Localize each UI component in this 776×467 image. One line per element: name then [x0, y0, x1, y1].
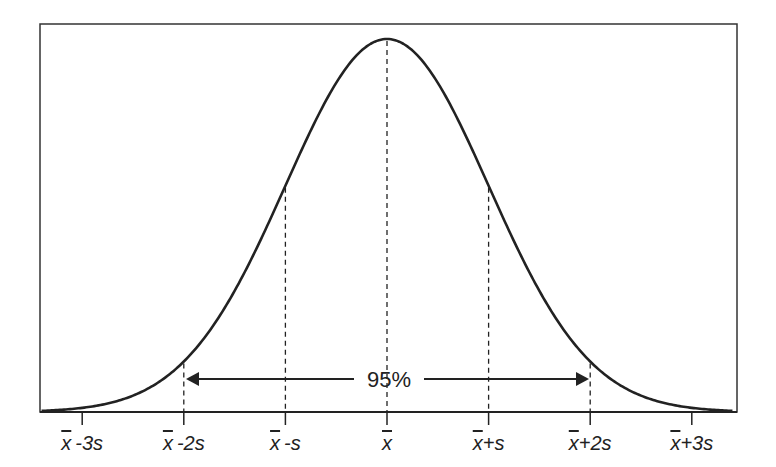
- x-tick-label: x+s: [472, 432, 505, 454]
- sigma-offset: -3s: [71, 432, 103, 454]
- x-tick-label: x+2s: [568, 432, 612, 454]
- sigma-offset: -s: [280, 432, 301, 454]
- sigma-offset: +s: [483, 432, 505, 454]
- x-tick-label: x: [381, 432, 393, 454]
- sigma-offset: +3s: [680, 432, 713, 454]
- x-ticks: x -3sx -2sx -sxx+sx+2sx+3s: [60, 412, 713, 454]
- normal-distribution-diagram: 95% x -3sx -2sx -sxx+sx+2sx+3s: [0, 0, 776, 467]
- sigma-offset: +2s: [579, 432, 612, 454]
- x-tick-label: x -3s: [60, 432, 103, 454]
- x-tick-label: x -s: [269, 432, 301, 454]
- x-tick-label: x+3s: [669, 432, 713, 454]
- sigma-offset: -2s: [173, 432, 205, 454]
- x-bar-symbol: x: [381, 432, 393, 454]
- x-tick-label: x -2s: [162, 432, 205, 454]
- interval-label: 95%: [367, 367, 411, 392]
- plot-frame: [40, 24, 737, 412]
